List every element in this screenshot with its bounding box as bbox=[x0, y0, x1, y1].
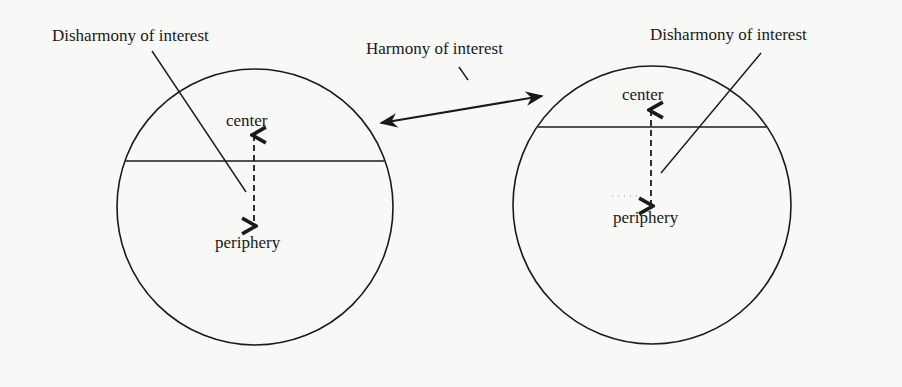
left-periphery-label: periphery bbox=[215, 233, 281, 252]
left-disharmony-label: Disharmony of interest bbox=[52, 26, 209, 45]
harmony-leader bbox=[459, 67, 468, 80]
harmony-relation: Harmony of interest bbox=[366, 39, 542, 123]
right-periphery-label: periphery bbox=[613, 208, 679, 227]
right-circle bbox=[513, 66, 791, 344]
right-system: Disharmony of interest center periphery bbox=[513, 25, 807, 344]
right-disharmony-label: Disharmony of interest bbox=[650, 25, 807, 44]
left-center-label: center bbox=[226, 111, 268, 130]
diagram-canvas: Disharmony of interest center periphery … bbox=[0, 0, 902, 387]
right-disharmony-leader bbox=[661, 53, 761, 173]
harmony-double-arrow bbox=[381, 96, 542, 123]
diagram-svg: Disharmony of interest center periphery … bbox=[0, 0, 902, 387]
right-center-label: center bbox=[622, 85, 664, 104]
left-system: Disharmony of interest center periphery bbox=[52, 26, 393, 345]
harmony-label: Harmony of interest bbox=[366, 39, 503, 58]
